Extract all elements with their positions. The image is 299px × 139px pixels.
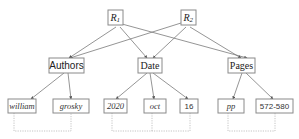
grosky-label: grosky <box>60 101 83 111</box>
edge-r1-authors <box>69 27 116 58</box>
root-node-r1: R1 <box>108 10 123 25</box>
root-edges <box>69 23 247 58</box>
month-label: oct <box>150 101 161 111</box>
edge-authors-grosky <box>68 73 71 99</box>
edge-r2-date <box>153 27 186 58</box>
dotted-pages-group <box>228 113 275 131</box>
william-label: william <box>9 101 35 111</box>
dotted-date-group <box>112 113 190 131</box>
edge-r1-pages <box>122 24 247 58</box>
range-label: 572-580 <box>260 102 290 111</box>
dotted-connectors <box>14 113 275 131</box>
root-node-r2: R2 <box>181 10 196 25</box>
pages-label: Pages <box>230 60 253 71</box>
leaf-node-grosky: grosky <box>53 99 89 113</box>
leaf-node-pp: pp <box>218 99 244 113</box>
edge-date-month <box>150 73 154 99</box>
field-node-date: Date <box>138 58 162 73</box>
leaf-node-range: 572-580 <box>256 99 293 113</box>
pp-label: pp <box>226 101 236 111</box>
edge-r2-authors <box>70 23 181 58</box>
edge-pages-pp <box>233 73 242 99</box>
date-label: Date <box>141 60 160 71</box>
edge-r1-date <box>120 27 147 58</box>
authors-label: Authors <box>49 60 83 71</box>
dotted-authors-group <box>14 113 71 131</box>
edge-date-year <box>116 73 147 99</box>
edge-date-day <box>153 73 188 99</box>
edge-pages-range <box>246 73 273 99</box>
field-node-pages: Pages <box>228 58 255 73</box>
field-edges <box>31 73 273 99</box>
leaf-node-day: 16 <box>180 99 198 113</box>
leaf-node-year: 2020 <box>104 99 127 113</box>
leaf-node-month: oct <box>144 99 166 113</box>
edge-authors-william <box>31 73 64 99</box>
field-node-authors: Authors <box>49 58 84 73</box>
year-label: 2020 <box>107 101 125 111</box>
diagram-canvas: R1 R2 Authors Date Pages william grosky … <box>0 0 299 139</box>
edge-r2-pages <box>190 27 241 58</box>
day-label: 16 <box>185 102 194 111</box>
leaf-node-william: william <box>8 99 36 113</box>
